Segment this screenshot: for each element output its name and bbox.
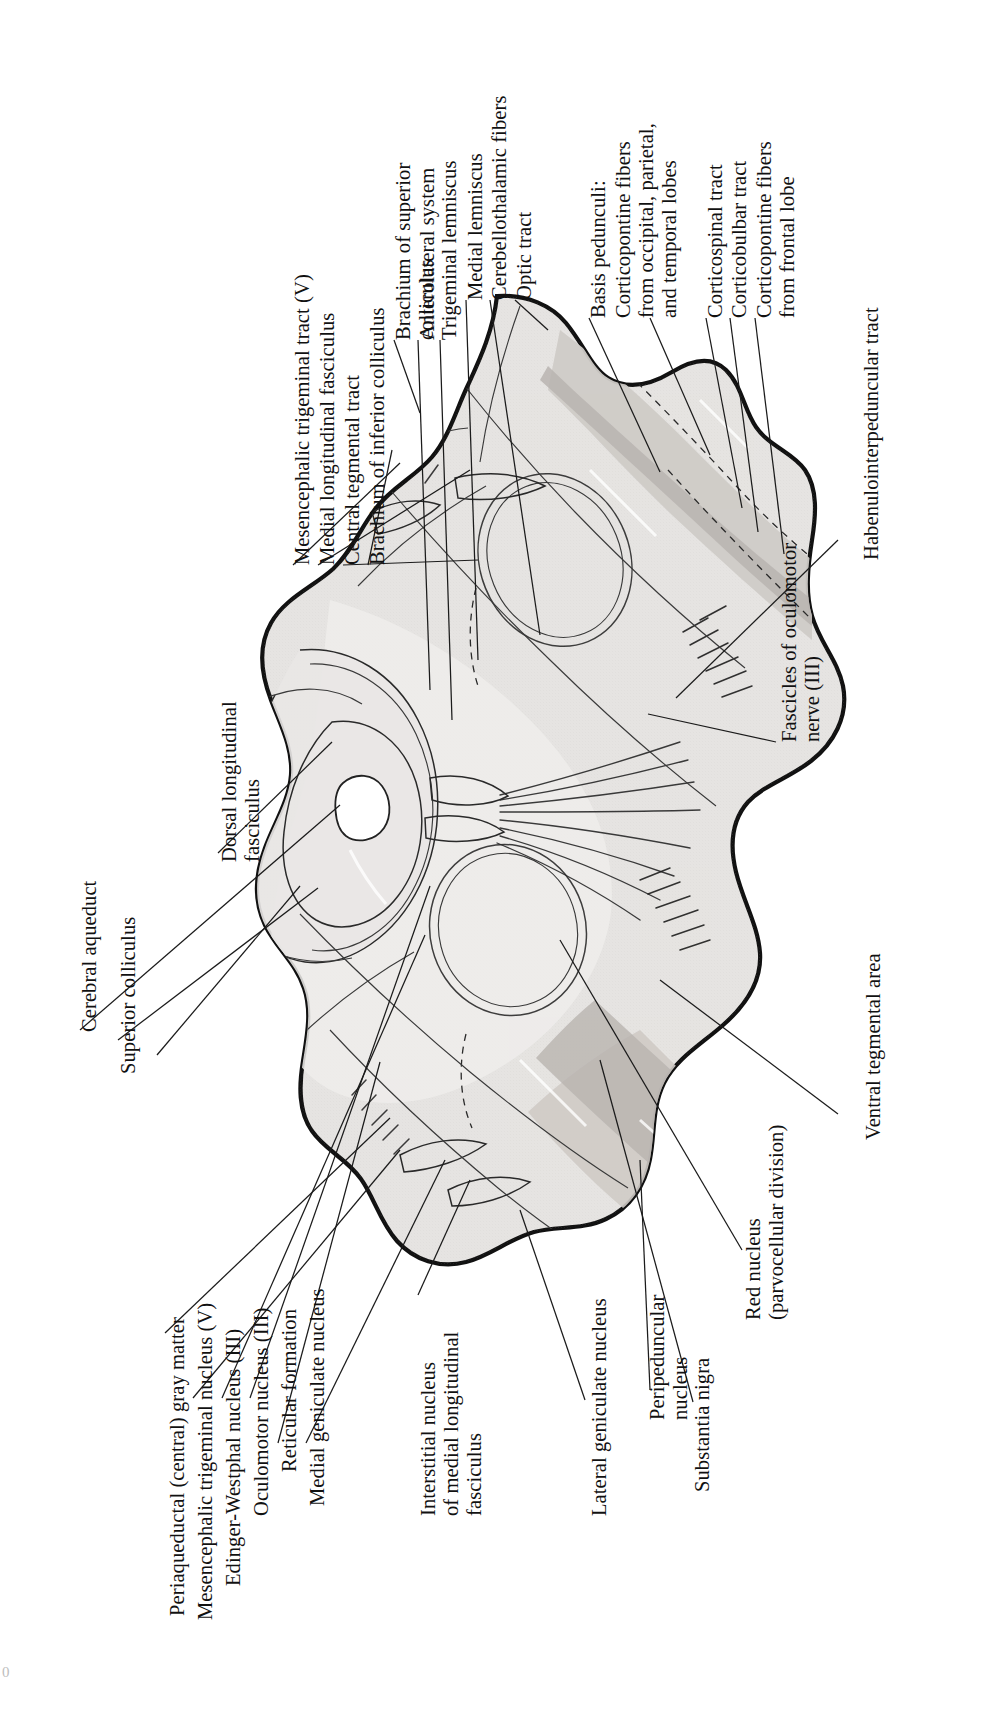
label-medial-longitudinal-fasciculus: Medial longitudinal fasciculus: [316, 313, 339, 565]
label-medial-geniculate-nucleus: Medial geniculate nucleus: [306, 1288, 329, 1506]
label-medial-lemniscus: Medial lemniscus: [464, 153, 487, 300]
label-edinger-westphal-nucleus: Edinger-Westphal nucleus (III): [222, 1329, 245, 1586]
label-basis-pedunculi: Basis pedunculi:: [587, 180, 610, 318]
label-mesencephalic-trigeminal-tract: Mesencephalic trigeminal tract (V): [291, 274, 314, 565]
label-corticopontine-fibers-occipital: Corticopontine fibers from occipital, pa…: [612, 123, 681, 318]
label-reticular-formation: Reticular formation: [278, 1309, 301, 1472]
label-periaqueductal-gray-matter: Periaqueductal (central) gray matter: [166, 1317, 189, 1616]
label-corticopontine-fibers-frontal: Corticopontine fibers from frontal lobe: [753, 141, 799, 318]
figure-canvas: Mesencephalic trigeminal tract (V) Media…: [0, 0, 997, 1731]
label-interstitial-nucleus-mlf: Interstitial nucleus of medial longitudi…: [417, 1332, 486, 1516]
label-central-tegmental-tract: Central tegmental tract: [341, 375, 364, 565]
label-dorsal-longitudinal-fasciculus: Dorsal longitudinal fasciculus: [218, 701, 264, 862]
label-corticobulbar-tract: Corticobulbar tract: [728, 161, 751, 318]
label-corticospinal-tract: Corticospinal tract: [704, 164, 727, 318]
label-cerebellothalamic-fibers: Cerebellothalamic fibers: [488, 96, 511, 300]
label-mesencephalic-trigeminal-nucleus: Mesencephalic trigeminal nucleus (V): [194, 1303, 217, 1620]
label-ventral-tegmental-area: Ventral tegmental area: [862, 953, 885, 1140]
label-fascicles-of-oculomotor-nerve: Fascicles of oculomotor nerve (III): [778, 543, 824, 742]
label-trigeminal-lemniscus: Trigeminal lemniscus: [438, 161, 461, 340]
page-number: 0: [2, 1664, 16, 1686]
label-peripeduncular-nucleus: Peripeduncular nucleus: [646, 1295, 692, 1421]
label-optic-tract: Optic tract: [513, 212, 536, 300]
label-lateral-geniculate-nucleus: Lateral geniculate nucleus: [588, 1298, 611, 1516]
label-oculomotor-nucleus: Oculomotor nucleus (III): [250, 1308, 273, 1516]
label-substantia-nigra: Substantia nigra: [691, 1358, 714, 1492]
label-brachium-of-inferior-colliculus: Brachium of inferior colliculus: [366, 307, 389, 565]
label-superior-colliculus: Superior colliculus: [117, 917, 140, 1074]
label-red-nucleus: Red nucleus (parvocellular division): [742, 1125, 788, 1320]
label-anterolateral-system: Anterolateral system: [416, 168, 439, 340]
label-habenulointerpeduncular-tract: Habenulointerpeduncular tract: [860, 307, 883, 560]
label-cerebral-aqueduct: Cerebral aqueduct: [78, 881, 101, 1032]
